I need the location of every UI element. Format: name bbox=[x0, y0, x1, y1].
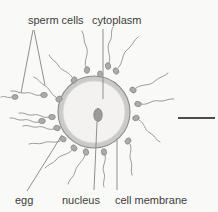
diagram-canvas: sperm cells cytoplasm egg nucleus cell m… bbox=[0, 0, 218, 212]
label-sperm-cells: sperm cells bbox=[28, 14, 84, 26]
sperm-cell bbox=[124, 137, 132, 175]
label-egg: egg bbox=[15, 194, 33, 206]
sperm-cell bbox=[134, 99, 174, 107]
fertilisation-diagram: sperm cells cytoplasm egg nucleus cell m… bbox=[0, 0, 218, 212]
sperm-cell bbox=[101, 148, 107, 187]
sperm-cell bbox=[82, 31, 90, 74]
label-cell-membrane: cell membrane bbox=[115, 194, 187, 206]
sperm-cell bbox=[68, 148, 90, 184]
nucleus bbox=[94, 109, 102, 122]
leader-line-sperm-cells-1 bbox=[21, 30, 33, 93]
sperm-cell bbox=[34, 77, 63, 103]
sperm-cell bbox=[129, 73, 168, 94]
sperm-cell bbox=[10, 118, 46, 124]
label-nucleus: nucleus bbox=[62, 194, 100, 206]
sperm-cell bbox=[19, 113, 56, 120]
sperm-cell bbox=[45, 144, 78, 168]
label-cytoplasm: cytoplasm bbox=[92, 14, 142, 26]
leader-line-sperm-cells-2 bbox=[34, 30, 45, 85]
sperm-cell bbox=[1, 94, 18, 99]
sperm-cell bbox=[49, 55, 78, 84]
sperm-cell bbox=[112, 37, 138, 75]
sperm-cell bbox=[105, 27, 113, 70]
sperm-head-bump bbox=[98, 71, 103, 77]
sperm-cell bbox=[23, 125, 61, 132]
sperm-cell bbox=[132, 114, 160, 142]
egg-cell bbox=[58, 76, 130, 148]
